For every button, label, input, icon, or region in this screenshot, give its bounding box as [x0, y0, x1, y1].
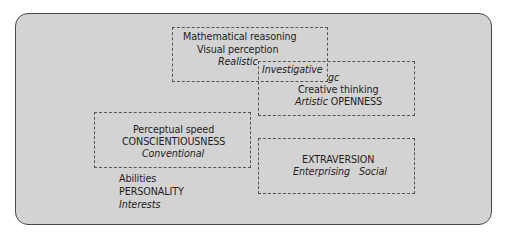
- legend-abilities: Abilities: [119, 173, 156, 185]
- label-social: Social: [359, 166, 387, 177]
- label-artistic: Artistic: [295, 96, 328, 107]
- label-conscientiousness: CONSCIENTIOUSNESS: [122, 136, 225, 148]
- label-enterprising-social: Enterprising Social: [293, 166, 387, 178]
- label-visual-perception: Visual perception: [197, 44, 278, 56]
- label-extraversion: EXTRAVERSION: [302, 154, 374, 166]
- label-openness: OPENNESS: [331, 96, 382, 107]
- legend-interests: Interests: [119, 199, 160, 211]
- label-enterprising: Enterprising: [293, 166, 350, 177]
- label-gc: gc: [328, 72, 339, 84]
- label-perceptual-speed: Perceptual speed: [133, 124, 214, 136]
- label-realistic: Realistic: [218, 56, 258, 68]
- label-artistic-openness: Artistic OPENNESS: [295, 96, 382, 108]
- label-conventional: Conventional: [142, 148, 204, 160]
- label-creative-thinking: Creative thinking: [298, 84, 379, 96]
- legend-personality: PERSONALITY: [119, 186, 184, 198]
- label-investigative: Investigative: [262, 64, 323, 76]
- label-mathematical-reasoning: Mathematical reasoning: [183, 31, 297, 43]
